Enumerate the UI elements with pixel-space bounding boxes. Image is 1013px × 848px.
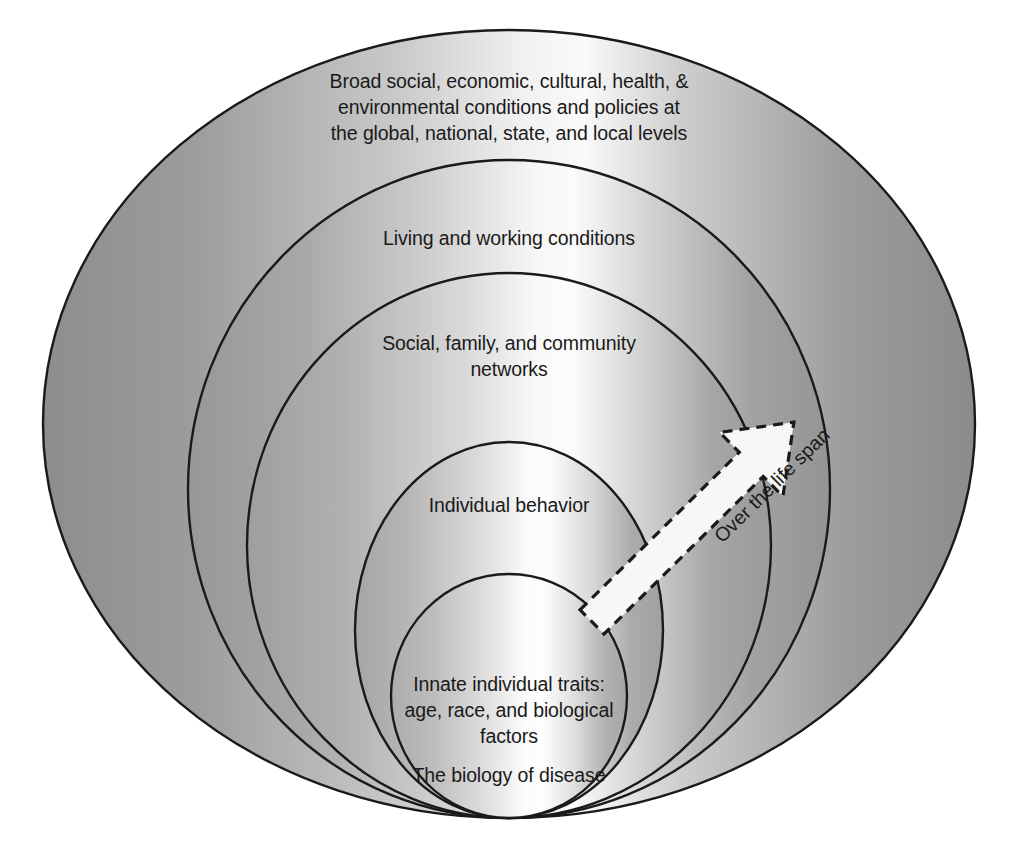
diagram-canvas: Broad social, economic, cultural, health… [0,0,1013,848]
nested-ellipse-diagram [0,0,1013,848]
